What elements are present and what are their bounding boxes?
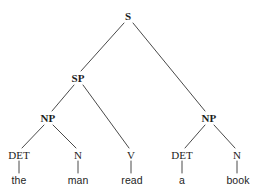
tree-node-w_man: man <box>68 175 89 186</box>
tree-node-w_read: read <box>121 175 142 186</box>
tree-node-np_obj: NP <box>202 113 217 124</box>
syntax-tree-figure: SSPNPNPDETNVDETNthemanreadabook <box>0 0 262 193</box>
tree-edge-layer <box>0 0 262 193</box>
tree-node-w_a: a <box>179 175 185 186</box>
tree-node-sp: SP <box>71 73 84 84</box>
tree-edge-np_subj-det1 <box>22 125 44 148</box>
tree-edge-np_obj-n2 <box>214 125 235 148</box>
tree-node-np_subj: NP <box>41 113 56 124</box>
tree-node-det1: DET <box>8 150 30 161</box>
tree-node-n2: N <box>233 150 241 161</box>
tree-node-w_the: the <box>12 175 27 186</box>
tree-edge-s-np_obj <box>133 23 205 111</box>
tree-node-det2: DET <box>171 150 193 161</box>
tree-edge-np_obj-det2 <box>185 125 205 148</box>
tree-node-n1: N <box>74 150 82 161</box>
tree-node-s: S <box>125 11 131 22</box>
tree-node-v1: V <box>127 150 135 161</box>
tree-edge-s-sp <box>81 23 124 71</box>
tree-edge-np_subj-n1 <box>53 125 76 148</box>
tree-edge-sp-np_subj <box>52 85 74 111</box>
tree-node-w_book: book <box>226 175 249 186</box>
tree-edge-sp-v1 <box>83 85 129 148</box>
